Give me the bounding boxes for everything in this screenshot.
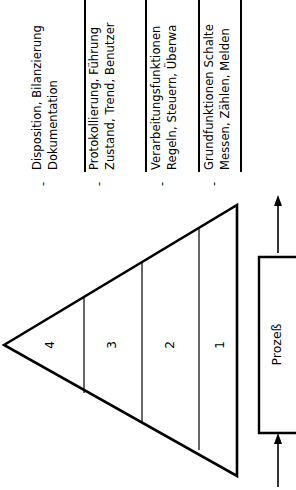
- pyramid-level-number-1: 1: [214, 337, 226, 353]
- pyramid-level-number-2: 2: [164, 337, 176, 353]
- process-arrow-out-head: [274, 195, 282, 206]
- pyramid-outline: [4, 205, 237, 476]
- process-box-label: Prozeß: [270, 321, 283, 369]
- pyramid-level-number-3: 3: [106, 337, 118, 353]
- pyramid-graphic: [0, 0, 296, 490]
- process-arrow-in-head: [274, 433, 282, 444]
- pyramid-level-number-4: 4: [44, 337, 56, 353]
- diagram-canvas: Disposition, Bilanzierung Dokumentation …: [0, 0, 296, 490]
